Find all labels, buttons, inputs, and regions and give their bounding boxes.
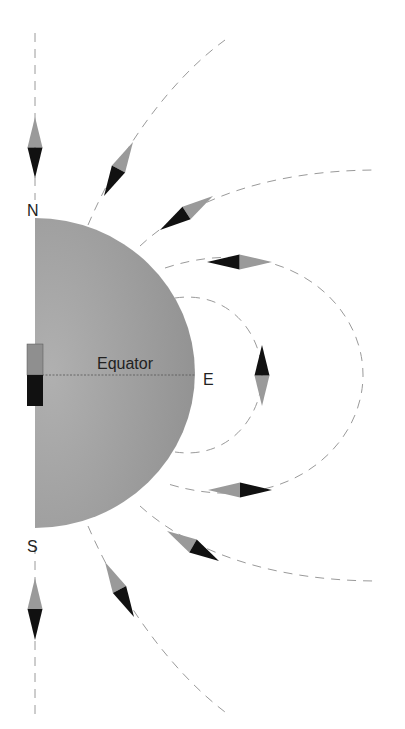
- field-line-outer-north: [88, 40, 225, 225]
- compass-needle-icon: [160, 196, 213, 230]
- needle-south-half: [255, 345, 270, 376]
- compass-needle-icon: [104, 142, 133, 196]
- compass-needle-icon: [208, 483, 272, 498]
- compass-needle-icon: [255, 345, 270, 406]
- field-line-second-north: [140, 170, 378, 246]
- needle-north-half: [240, 255, 273, 270]
- earth-hemisphere: [35, 218, 195, 528]
- needle-south-half: [207, 255, 240, 270]
- needle-north-half: [28, 117, 43, 148]
- needle-north-half: [208, 483, 240, 498]
- field-line-second-south: [140, 506, 378, 581]
- compass-needle-icon: [167, 531, 219, 561]
- needle-south-half: [240, 483, 272, 498]
- compass-needle-icon: [28, 117, 43, 178]
- compass-needle-icon: [207, 255, 272, 270]
- compass-needle-icon: [28, 578, 43, 640]
- magnetic-field-diagram: N S E Equator: [0, 0, 405, 729]
- label-north: N: [27, 202, 39, 219]
- needle-north-half: [28, 578, 43, 609]
- needle-north-half: [255, 376, 270, 407]
- bar-magnet-bottom: [27, 375, 43, 406]
- label-east: E: [203, 371, 214, 388]
- needle-south-half: [28, 609, 43, 640]
- label-equator: Equator: [97, 355, 154, 372]
- compass-needle-icon: [105, 562, 134, 617]
- needle-south-half: [28, 148, 43, 179]
- bar-magnet-top: [27, 344, 43, 375]
- label-south: S: [27, 538, 38, 555]
